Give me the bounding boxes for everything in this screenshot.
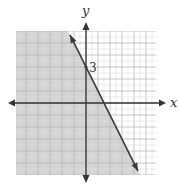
y-axis-down-arrow-icon <box>83 175 90 183</box>
x-axis-label: x <box>170 95 178 110</box>
y-axis-up-arrow-icon <box>83 22 90 30</box>
y-axis-label: y <box>81 3 90 18</box>
y-intercept-label: 3 <box>89 61 97 75</box>
x-axis-right-arrow-icon <box>159 100 166 107</box>
coordinate-plane: y x 3 <box>0 0 179 186</box>
x-axis-left-arrow-icon <box>8 100 15 107</box>
